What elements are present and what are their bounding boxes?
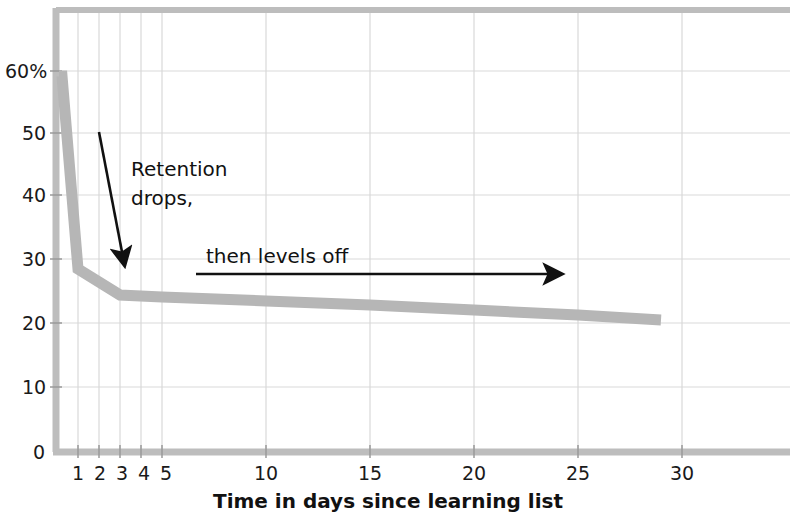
y-tick-label-0: 0 — [33, 441, 45, 463]
x-tick-label-2: 2 — [94, 462, 106, 484]
y-tick-label-60: 60% — [5, 60, 47, 82]
y-tick-label-50: 50 — [22, 122, 46, 144]
y-tick-label-10: 10 — [22, 376, 46, 398]
x-tick-label-4: 4 — [138, 462, 150, 484]
annotation-retention-drops-line1: Retention — [131, 157, 227, 181]
x-tick-label-25: 25 — [566, 462, 590, 484]
x-tick-label-30: 30 — [670, 462, 694, 484]
retention-chart: Retention drops, then levels off 60% 50 … — [0, 0, 793, 515]
x-tick-label-3: 3 — [116, 462, 128, 484]
x-tick-label-20: 20 — [462, 462, 486, 484]
chart-background — [0, 0, 793, 515]
x-tick-label-15: 15 — [358, 462, 382, 484]
x-tick-label-1: 1 — [72, 462, 84, 484]
forgetting-curve-figure: Retention drops, then levels off 60% 50 … — [0, 0, 793, 515]
annotation-levels-off-text: then levels off — [206, 244, 349, 268]
x-tick-label-5: 5 — [160, 462, 172, 484]
annotation-retention-drops-line2: drops, — [131, 186, 193, 210]
y-tick-label-20: 20 — [22, 312, 46, 334]
x-axis-title: Time in days since learning list — [213, 489, 563, 513]
y-tick-label-30: 30 — [22, 248, 46, 270]
x-tick-label-10: 10 — [254, 462, 278, 484]
y-tick-label-40: 40 — [22, 184, 46, 206]
